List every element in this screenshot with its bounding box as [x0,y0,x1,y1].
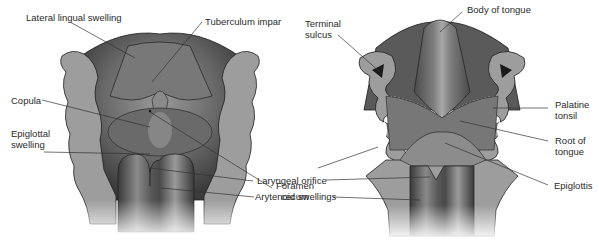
label-root-of-tongue-line1: Root of [555,135,586,146]
label-epiglottal-swelling-line1: Epiglottal [11,128,50,139]
label-palatine-tonsil-line2: tonsil [555,110,577,121]
label-terminal-sulcus-line1: Terminal [305,18,341,29]
label-laryngeal-orifice: Laryngeal orifice [257,175,327,186]
right-embryo-illustration [359,20,530,241]
label-lateral-lingual-swelling: Lateral lingual swelling [26,12,122,23]
left-embryo-illustration [61,33,260,241]
label-terminal-sulcus-line2: sulcus [305,29,332,40]
label-root-of-tongue-line2: tongue [555,146,584,157]
label-epiglottis: Epiglottis [554,180,593,191]
label-copula: Copula [11,95,41,106]
tongue-development-diagram [0,0,599,241]
label-body-of-tongue: Body of tongue [467,4,531,15]
label-palatine-tonsil-line1: Palatine [555,99,589,110]
foramen-cecum-dot [149,110,151,112]
label-arytenoid-swellings: Arytenoid swellings [255,191,336,202]
label-tuberculum-impar: Tuberculum impar [205,16,281,27]
label-epiglottal-swelling-line2: swelling [11,139,45,150]
